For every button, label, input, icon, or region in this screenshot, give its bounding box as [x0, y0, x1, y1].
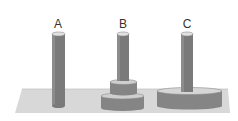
peg-c: [181, 32, 193, 92]
peg-label-c: C: [177, 17, 197, 31]
peg-b: [117, 32, 129, 81]
disc-small-on-b: [110, 80, 137, 96]
peg-label-b: B: [113, 17, 133, 31]
peg-a: [52, 32, 65, 108]
disc-medium-on-b: [101, 93, 144, 111]
peg-label-a: A: [48, 17, 68, 31]
